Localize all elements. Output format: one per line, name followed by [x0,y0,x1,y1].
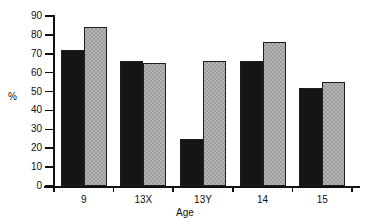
x-tick-label: 9 [54,194,114,205]
y-tick-label-text: 90 [0,11,42,21]
x-tick-label: 13X [114,194,174,205]
y-tick [45,15,54,17]
y-tick-label-text: 50 [0,87,42,97]
bar [240,61,263,186]
x-tick [232,186,234,192]
y-tick [45,166,54,168]
y-tick [45,91,54,93]
bar [61,50,84,186]
y-tick [45,72,54,74]
x-tick [292,186,294,192]
y-tick [45,147,54,149]
x-axis-title: Age [0,207,370,218]
bar [180,139,203,186]
y-tick-label-text: 70 [0,49,42,59]
plot-area [54,16,352,186]
bar [263,42,286,186]
x-tick-label: 14 [233,194,293,205]
x-tick [351,186,353,192]
y-tick-label-text: 80 [0,30,42,40]
bar [203,61,226,186]
y-tick-label-text: 20 [0,143,42,153]
x-tick [53,186,55,192]
bar [84,27,107,186]
x-tick-label: 15 [292,194,352,205]
y-tick-label-text: 40 [0,105,42,115]
y-tick-label-text: 60 [0,68,42,78]
bar [120,61,143,186]
bar [143,63,166,186]
y-tick [45,129,54,131]
y-tick [45,34,54,36]
x-tick [172,186,174,192]
y-tick-label-text: 0 [0,181,42,191]
x-axis-line [44,186,360,188]
bar [299,88,322,186]
x-tick [113,186,115,192]
y-tick-label-text: 30 [0,124,42,134]
y-tick [45,53,54,55]
y-tick [45,110,54,112]
y-tick-label-text: 10 [0,162,42,172]
bar-chart: % 0102030405060708090 913X13Y1415 Age [0,0,370,221]
bar [322,82,345,186]
x-tick-label: 13Y [173,194,233,205]
